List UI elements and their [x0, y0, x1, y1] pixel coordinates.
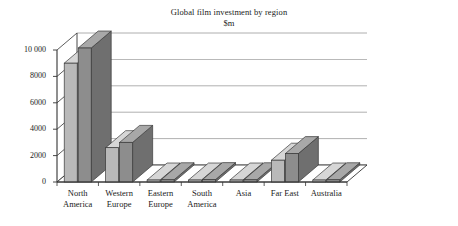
y-tick-label-6000: 6000	[0, 99, 52, 107]
y-tick-label-4000: 4000	[0, 125, 52, 133]
bar-western-europe-series1-front-face	[106, 148, 119, 182]
axis-depth-tick-10 000	[57, 33, 77, 50]
bar-north-america-series1-front-face	[64, 63, 77, 182]
x-label-line2: America	[172, 199, 232, 210]
bar-far-east-series2-front-face	[285, 154, 298, 182]
y-tick-label-0: 0	[0, 178, 52, 186]
bar-far-east-series1-front-face	[271, 160, 284, 182]
y-tick-label-2000: 2000	[0, 152, 52, 160]
y-tick-label-10000: 10 000	[0, 46, 52, 54]
chart-figure: Global film investment by region $m 0200…	[0, 0, 458, 226]
y-tick-label-8000: 8000	[0, 72, 52, 80]
bar-north-america-series2-front-face	[78, 48, 91, 182]
bar-western-europe-series2-front-face	[120, 142, 133, 182]
x-label-line1: Australia	[296, 188, 356, 199]
x-label-australia: Australia	[296, 188, 356, 199]
